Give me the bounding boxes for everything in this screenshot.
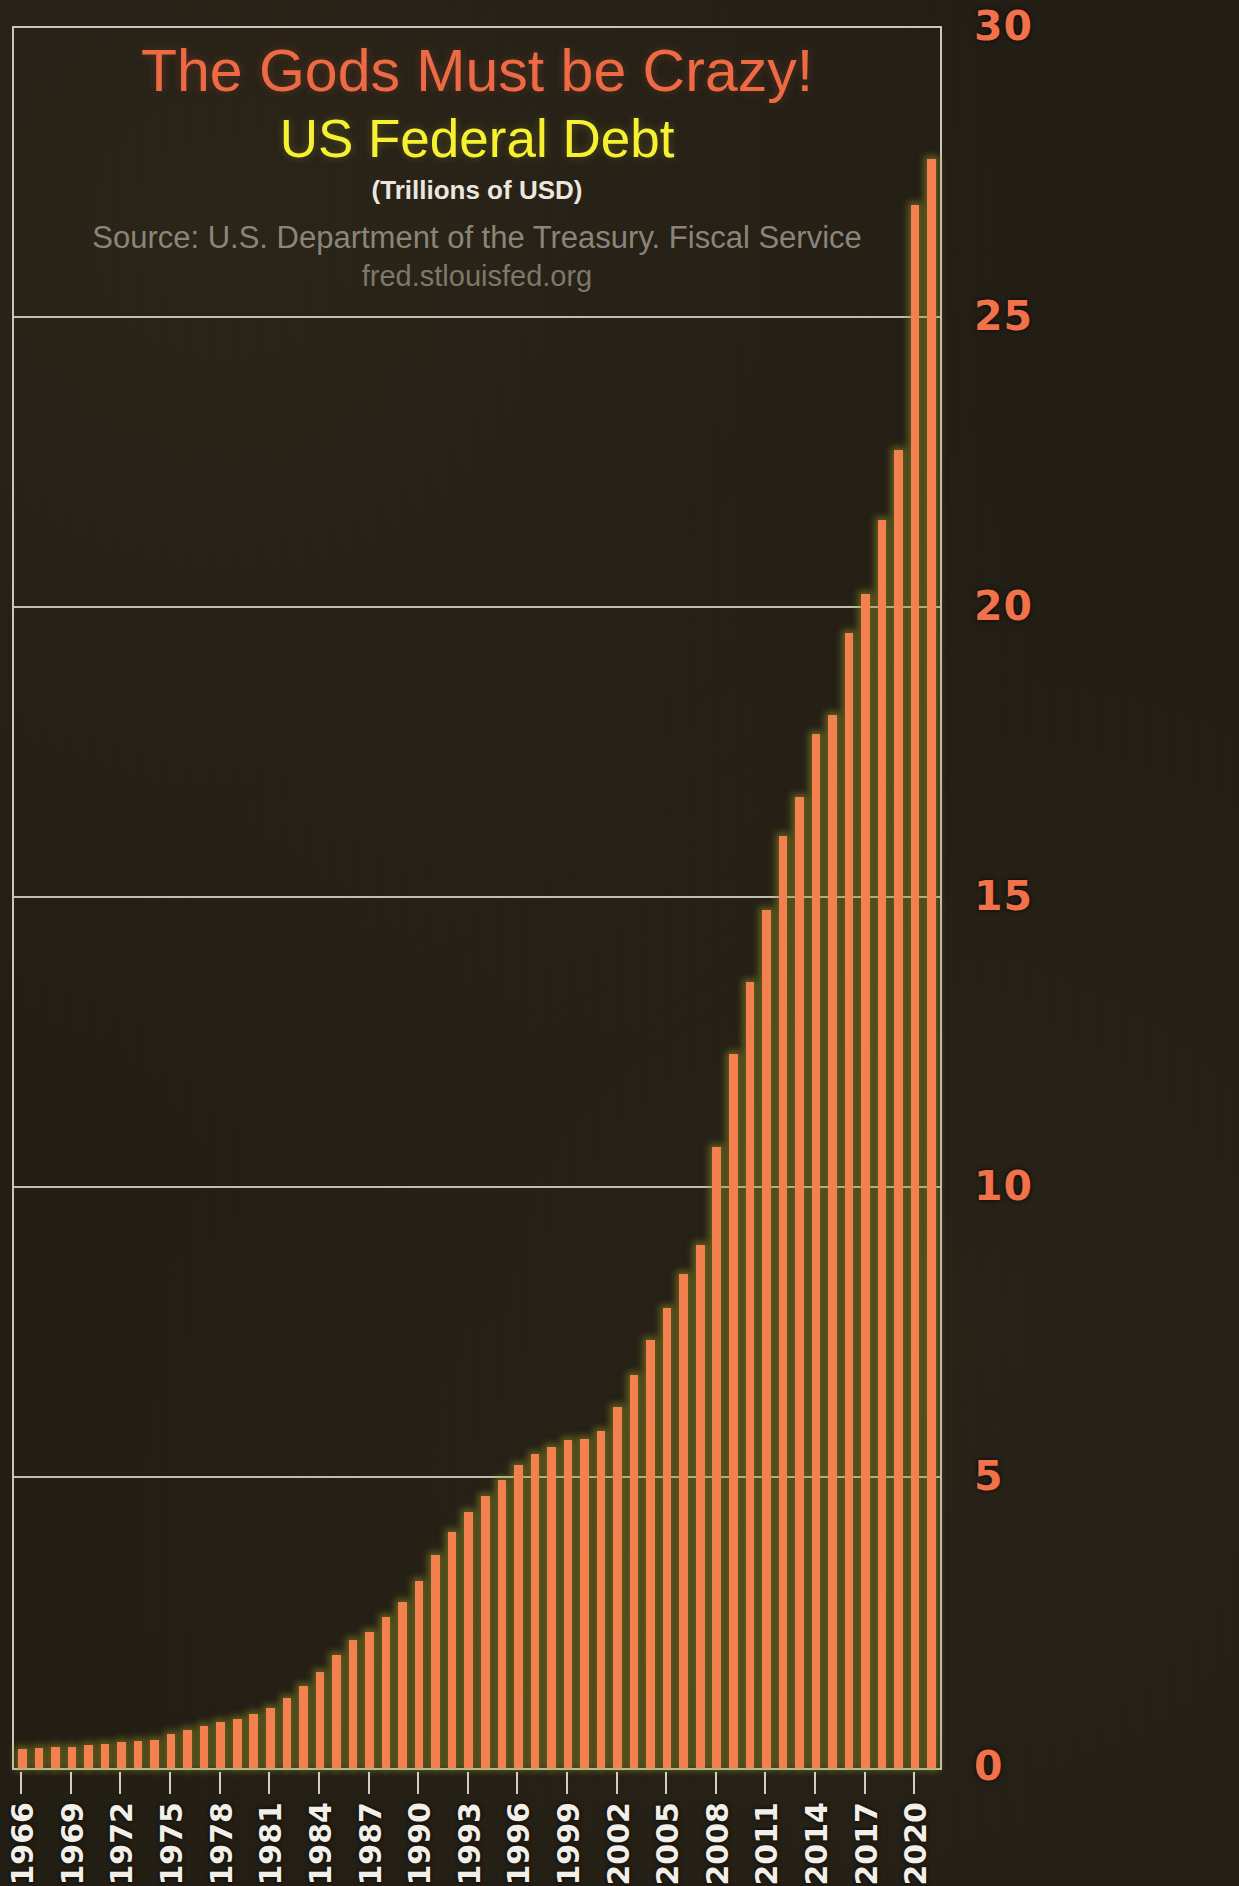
x-tick-label-1969: 1969 [55, 1802, 90, 1886]
bar-1998 [547, 1447, 556, 1768]
x-tick-label-2014: 2014 [799, 1802, 834, 1886]
bar-1978 [216, 1722, 225, 1768]
x-tick-label-1984: 1984 [303, 1802, 338, 1886]
x-tick-mark-2008 [715, 1772, 717, 1794]
bar-2021 [927, 159, 936, 1769]
x-tick-mark-1972 [119, 1772, 121, 1794]
bar-1974 [150, 1740, 159, 1768]
y-tick-label-0: 0 [974, 1742, 1004, 1790]
x-tick-label-2017: 2017 [849, 1802, 884, 1886]
x-tick-label-1993: 1993 [452, 1802, 487, 1886]
bar-1987 [365, 1632, 374, 1768]
bar-1984 [316, 1672, 325, 1768]
bar-1975 [167, 1734, 176, 1768]
bar-2010 [746, 982, 755, 1768]
bar-2012 [779, 836, 788, 1768]
bar-2009 [729, 1054, 738, 1768]
bar-2013 [795, 797, 804, 1768]
bar-1993 [464, 1512, 473, 1768]
x-tick-mark-2017 [864, 1772, 866, 1794]
bar-1988 [382, 1617, 391, 1768]
bar-2007 [696, 1245, 705, 1768]
bar-1983 [299, 1686, 308, 1768]
x-tick-mark-1996 [516, 1772, 518, 1794]
bar-2004 [646, 1340, 655, 1768]
bar-1995 [498, 1480, 507, 1768]
x-tick-label-1966: 1966 [5, 1802, 40, 1886]
x-tick-mark-1999 [566, 1772, 568, 1794]
y-tick-label-30: 30 [974, 2, 1033, 50]
bar-2020 [911, 205, 920, 1768]
x-tick-mark-1978 [219, 1772, 221, 1794]
x-tick-label-2002: 2002 [601, 1802, 636, 1886]
bar-2003 [630, 1375, 639, 1768]
x-tick-mark-1993 [467, 1772, 469, 1794]
bar-1999 [564, 1440, 573, 1768]
x-tick-mark-1990 [417, 1772, 419, 1794]
x-tick-label-1981: 1981 [253, 1802, 288, 1886]
x-tick-label-2008: 2008 [700, 1802, 735, 1886]
bar-1971 [101, 1744, 110, 1768]
bar-1970 [84, 1745, 93, 1768]
bar-2008 [712, 1147, 721, 1768]
x-tick-label-1978: 1978 [204, 1802, 239, 1886]
y-tick-label-25: 25 [974, 292, 1033, 340]
bar-1981 [266, 1708, 275, 1768]
bar-2006 [679, 1274, 688, 1768]
x-tick-mark-1969 [70, 1772, 72, 1794]
bar-1968 [51, 1747, 60, 1768]
chart-plot-area [12, 26, 942, 1770]
x-axis: 1966196919721975197819811984198719901993… [12, 1772, 942, 1881]
x-tick-mark-1984 [318, 1772, 320, 1794]
x-tick-label-1996: 1996 [501, 1802, 536, 1886]
bar-1980 [249, 1714, 258, 1768]
bar-1979 [233, 1719, 242, 1768]
bar-1992 [448, 1532, 457, 1768]
x-tick-mark-2005 [665, 1772, 667, 1794]
x-tick-label-2020: 2020 [898, 1802, 933, 1886]
x-tick-mark-1966 [20, 1772, 22, 1794]
bar-1996 [514, 1465, 523, 1768]
y-tick-label-20: 20 [974, 582, 1033, 630]
x-tick-mark-2014 [814, 1772, 816, 1794]
bar-1986 [349, 1640, 358, 1768]
bar-2018 [878, 520, 887, 1768]
y-tick-label-5: 5 [974, 1452, 1004, 1500]
x-tick-mark-2011 [764, 1772, 766, 1794]
bar-2019 [894, 450, 903, 1768]
bar-series [14, 28, 940, 1768]
bar-1997 [531, 1454, 540, 1768]
bar-1967 [35, 1748, 44, 1768]
bar-2001 [597, 1431, 606, 1768]
bar-1972 [117, 1742, 126, 1768]
x-tick-label-1972: 1972 [104, 1802, 139, 1886]
x-tick-mark-1975 [169, 1772, 171, 1794]
bar-2015 [828, 715, 837, 1768]
bar-2014 [812, 734, 821, 1768]
x-tick-label-1999: 1999 [551, 1802, 586, 1886]
bar-1991 [431, 1555, 440, 1768]
x-tick-mark-2002 [616, 1772, 618, 1794]
x-tick-label-1987: 1987 [353, 1802, 388, 1886]
bar-1976 [183, 1730, 192, 1768]
bar-1994 [481, 1496, 490, 1768]
bar-1982 [283, 1698, 292, 1768]
bar-1969 [68, 1747, 77, 1768]
bar-2002 [613, 1407, 622, 1768]
bar-2011 [762, 910, 771, 1768]
bar-1990 [415, 1581, 424, 1768]
y-tick-label-10: 10 [974, 1162, 1033, 1210]
bar-1977 [200, 1726, 209, 1768]
x-tick-label-2011: 2011 [749, 1802, 784, 1886]
bar-1985 [332, 1655, 341, 1768]
x-tick-mark-1987 [368, 1772, 370, 1794]
x-tick-label-1975: 1975 [154, 1802, 189, 1886]
x-tick-mark-1981 [268, 1772, 270, 1794]
x-tick-label-2005: 2005 [650, 1802, 685, 1886]
bar-1989 [398, 1602, 407, 1768]
bar-2005 [663, 1308, 672, 1768]
bar-2017 [861, 594, 870, 1768]
bar-2016 [845, 633, 854, 1768]
y-axis: 051015202530 [952, 0, 1072, 1881]
